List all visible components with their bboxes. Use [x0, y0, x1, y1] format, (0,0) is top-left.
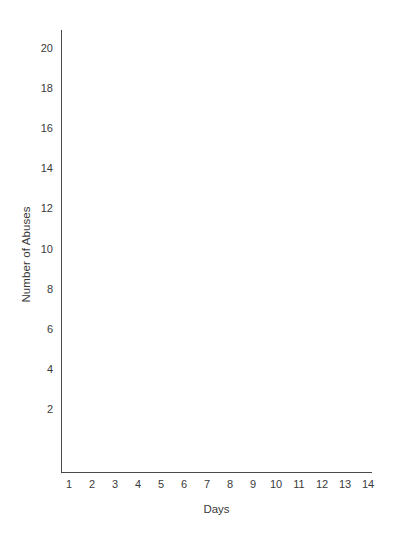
- x-tick-label: 14: [353, 479, 383, 490]
- x-axis-title: Days: [61, 503, 372, 515]
- x-axis-tick-labels: 1234567891011121314: [0, 0, 394, 541]
- chart-container: Number of Abuses 2018161412108642 123456…: [0, 0, 394, 541]
